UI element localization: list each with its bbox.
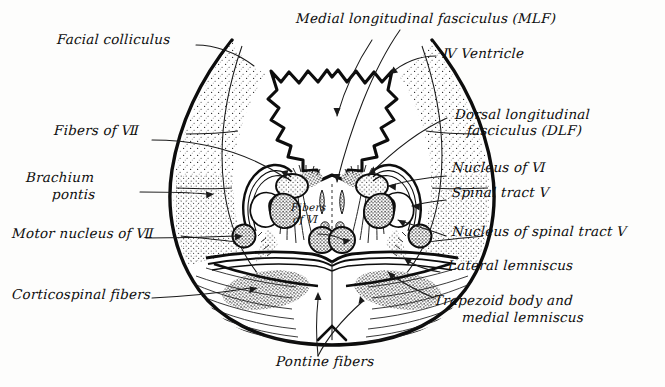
label-brachium-pontis-line1: Brachium (26, 170, 95, 186)
label-spinal-tract-v: Spinal tract Ⅴ (452, 186, 550, 201)
label-facial-colliculus: Facial colliculus (57, 33, 171, 48)
label-nucleus-of-vi: Nucleus of Ⅵ (452, 161, 546, 176)
label-motor-nucleus-of-vii: Motor nucleus of Ⅶ (12, 227, 155, 242)
label-dlf-line2: fasciculus (DLF) (467, 123, 583, 139)
label-trapezoid-line2: medial lemniscus (462, 310, 585, 326)
label-pontine-fibers: Pontine fibers (276, 355, 375, 370)
label-corticospinal-fibers: Corticospinal fibers (12, 288, 152, 303)
label-lateral-lemniscus: Lateral lemniscus (448, 259, 574, 274)
label-mlf: Medial longitudinal fasciculus (MLF) (296, 12, 557, 27)
pons-cross-section-figure: Facial colliculus Medial longitudinal fa… (0, 0, 665, 387)
label-fibers-of-vii: Fibers of Ⅶ (54, 124, 140, 139)
label-iv-ventricle: Ⅳ Ventricle (443, 47, 525, 62)
label-fibers-of-vi-line2: of Ⅵ (293, 213, 319, 228)
label-nucleus-of-spinal-tract-v: Nucleus of spinal tract Ⅴ (452, 225, 628, 240)
label-trapezoid-line1: Trapezoid body and (434, 293, 574, 309)
label-dlf-line1: Dorsal longitudinal (455, 107, 591, 123)
label-brachium-pontis-line2: pontis (52, 187, 96, 203)
anatomy-line-drawing (0, 0, 665, 387)
